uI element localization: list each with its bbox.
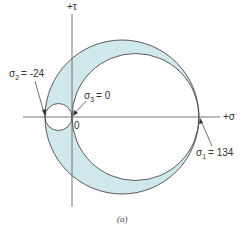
mohr-circle-diagram: +σ +τ 0 σ2= -24 σ3= 0 σ1= 134 (a)	[0, 0, 247, 237]
sigma1-annotation: σ1= 134	[196, 118, 234, 160]
sigma-axis-label: +σ	[223, 111, 236, 122]
tau-axis-label: +τ	[67, 1, 77, 12]
sigma2-symbol: σ2= -24	[9, 68, 45, 81]
sigma1-arrow-icon	[199, 118, 203, 124]
sigma1-symbol: σ1= 134	[196, 147, 234, 160]
origin-label: 0	[74, 120, 80, 131]
sigma2-annotation: σ2= -24	[9, 68, 46, 116]
figure-caption: (a)	[117, 214, 128, 224]
